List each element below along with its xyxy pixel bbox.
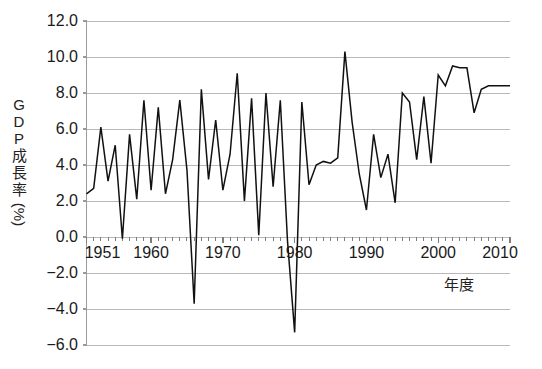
y-axis-title-char: 成 [6, 147, 32, 164]
x-tick-label: 2000 [420, 245, 456, 261]
y-axis-title-char: (%) [11, 202, 28, 228]
x-tick-label: 1970 [205, 245, 241, 261]
y-axis-title-char: P [6, 130, 32, 147]
gdp-growth-rate-chart: 12.010.08.06.04.02.00.0−2.0−4.0−6.0 1951… [0, 0, 542, 369]
y-axis-title-char: 長 [6, 164, 32, 181]
x-tick-label: 1960 [133, 245, 169, 261]
x-axis-tick-labels: 1951196019701980199020002010 [0, 0, 542, 369]
x-tick-label: 2010 [482, 245, 518, 261]
x-axis-title: 年度 [444, 273, 474, 294]
y-axis-title-char: 率 [6, 181, 32, 198]
y-axis-title-char: G [6, 96, 32, 113]
x-tick-label: 1990 [349, 245, 385, 261]
x-tick-label: 1951 [85, 245, 121, 261]
y-axis-title-char: D [6, 113, 32, 130]
y-axis-title: GDP成長率(%) [6, 96, 32, 223]
x-tick-label: 1980 [277, 245, 313, 261]
